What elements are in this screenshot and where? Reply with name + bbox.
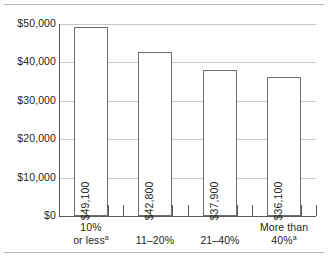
x-axis-tick: [59, 205, 60, 216]
x-axis-category-label: 21–40%: [188, 234, 252, 247]
category-label-line: 10%: [59, 221, 123, 234]
top-divider-rule: [4, 4, 324, 5]
x-axis-tick: [123, 205, 124, 216]
category-label-line: 40%a: [252, 234, 316, 247]
category-label-line: or lessa: [59, 234, 123, 247]
x-axis-tick: [237, 205, 238, 216]
footnote-marker: a: [293, 233, 297, 240]
x-axis-tick: [188, 205, 189, 216]
bar-value-label: $42,800: [143, 182, 155, 221]
category-label-line: More than: [252, 221, 316, 234]
y-axis-tick-label: $40,000: [0, 55, 56, 67]
x-axis-category-label: More than40%a: [252, 221, 316, 246]
x-axis-tick: [108, 205, 109, 216]
x-axis-tick: [252, 205, 253, 216]
x-axis-category-label: 11–20%: [123, 234, 187, 247]
y-axis-line: [59, 24, 60, 217]
bar-value-label: $49,100: [79, 182, 91, 221]
bar[interactable]: $42,800: [138, 52, 172, 216]
x-axis-tick: [316, 205, 317, 216]
category-label-line: 11–20%: [123, 234, 187, 247]
bar-value-label: $37,900: [208, 182, 220, 221]
category-label-line: 21–40%: [188, 234, 252, 247]
y-axis-tick-label: $0: [0, 209, 56, 221]
footnote-marker: a: [105, 233, 109, 240]
bar[interactable]: $36,100: [267, 77, 301, 216]
bar[interactable]: $49,100: [74, 27, 108, 216]
bar[interactable]: $37,900: [203, 70, 237, 216]
gridline: [59, 24, 316, 25]
x-axis-tick: [301, 205, 302, 216]
x-axis-category-label: 10%or lessa: [59, 221, 123, 246]
x-axis-tick: [172, 205, 173, 216]
bar-chart-figure: $50,000$40,000$30,000$20,000$10,000$0 $4…: [0, 0, 328, 263]
y-axis-tick-label: $10,000: [0, 171, 56, 183]
y-axis-tick-label: $20,000: [0, 132, 56, 144]
bar-value-label: $36,100: [272, 182, 284, 221]
bottom-divider-rule: [4, 252, 324, 253]
y-axis-tick-label: $50,000: [0, 17, 56, 29]
y-axis-tick-label: $30,000: [0, 94, 56, 106]
